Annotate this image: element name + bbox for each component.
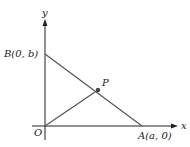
point-p-label: P bbox=[101, 77, 109, 88]
segment-op bbox=[45, 90, 98, 126]
y-axis-label: y bbox=[41, 7, 48, 18]
coordinate-diagram: y x P B(0, b) A(a, 0) O bbox=[0, 0, 190, 147]
y-axis-arrow-icon bbox=[43, 19, 48, 26]
point-p bbox=[96, 88, 100, 92]
point-b-label: B(0, b) bbox=[3, 48, 38, 59]
x-axis-arrow-icon bbox=[171, 124, 178, 129]
segment-ba bbox=[45, 54, 142, 126]
point-a-label: A(a, 0) bbox=[137, 130, 172, 141]
origin-label: O bbox=[34, 127, 42, 138]
x-axis-label: x bbox=[181, 120, 187, 131]
